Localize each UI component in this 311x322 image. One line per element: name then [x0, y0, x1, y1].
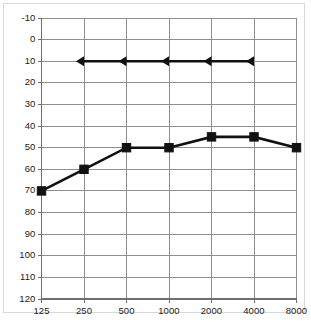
data-point-square: [165, 143, 173, 151]
y-axis-tick-label: 50: [25, 141, 36, 152]
data-point-left-arrow: [161, 56, 169, 66]
y-axis-tick-label: 30: [25, 98, 36, 109]
data-point-left-arrow: [246, 56, 254, 66]
y-axis-tick-label: 80: [25, 206, 36, 217]
audiogram-chart: -100102030405060708090100110120 12525050…: [4, 4, 310, 322]
y-axis-tick-label: 60: [25, 163, 36, 174]
data-point-square: [292, 143, 300, 151]
x-axis-tick-label: 250: [64, 305, 104, 316]
y-axis-tick-label: 20: [25, 76, 36, 87]
y-axis-tick-label: 0: [30, 33, 35, 44]
data-point-square: [37, 187, 45, 195]
data-point-square: [207, 133, 215, 141]
y-axis-tick-label: 10: [25, 55, 36, 66]
x-axis-tick-label: 4000: [234, 305, 274, 316]
chart-card: -100102030405060708090100110120 12525050…: [3, 3, 305, 313]
x-axis-tick-label: 8000: [277, 305, 311, 316]
data-point-square: [250, 133, 258, 141]
y-axis-tick-label: 40: [25, 120, 36, 131]
data-point-square: [80, 165, 88, 173]
x-axis-tick-label: 1000: [149, 305, 189, 316]
x-axis-tick-label: 125: [22, 305, 62, 316]
data-point-left-arrow: [204, 56, 212, 66]
y-axis-tick-label: 90: [25, 228, 36, 239]
y-axis-tick-label: 110: [20, 271, 35, 282]
y-axis-tick-label: 100: [19, 249, 35, 260]
data-point-left-arrow: [119, 56, 127, 66]
data-point-square: [122, 143, 130, 151]
x-axis-tick-label: 2000: [192, 305, 232, 316]
x-axis-tick-label: 500: [107, 305, 147, 316]
y-axis-tick-label: -10: [21, 12, 35, 23]
y-axis-tick-label: 70: [25, 184, 36, 195]
data-point-left-arrow: [76, 56, 84, 66]
chart-plot-area: [4, 4, 310, 322]
y-axis-tick-label: 120: [19, 293, 35, 304]
